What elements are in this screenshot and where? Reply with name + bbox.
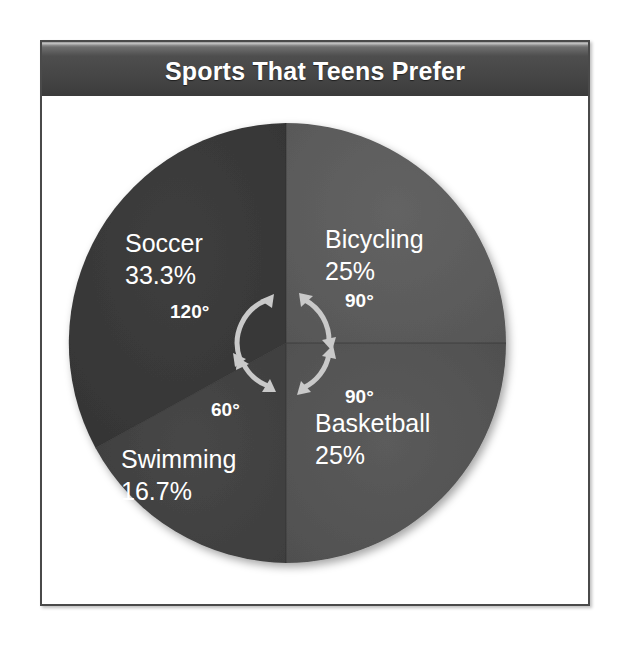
chart-card: Sports That Teens Prefer — [40, 40, 590, 606]
chart-title-bar: Sports That Teens Prefer — [42, 42, 588, 96]
slice-label-bicycling: Bicycling — [325, 225, 424, 253]
slice-percent-basketball: 25% — [315, 441, 365, 469]
slice-percent-bicycling: 25% — [325, 257, 375, 285]
screenshot-root: Sports That Teens Prefer — [0, 0, 628, 648]
page-title: Sports That Teens Prefer — [165, 57, 465, 86]
chart-area: Bicycling 25% Basketball 25% Swimming 16… — [42, 96, 588, 604]
slice-label-swimming: Swimming — [121, 445, 236, 473]
slice-label-soccer: Soccer — [125, 229, 203, 257]
title-bar-highlight — [42, 42, 588, 46]
slice-percent-swimming: 16.7% — [121, 477, 192, 505]
angle-label-bicycling: 90° — [345, 290, 374, 311]
pie-chart: Bicycling 25% Basketball 25% Swimming 16… — [63, 120, 509, 566]
angle-label-swimming: 60° — [211, 399, 240, 420]
angle-label-soccer: 120° — [170, 301, 209, 322]
slice-label-basketball: Basketball — [315, 409, 430, 437]
slice-percent-soccer: 33.3% — [125, 261, 196, 289]
angle-label-basketball: 90° — [345, 386, 374, 407]
